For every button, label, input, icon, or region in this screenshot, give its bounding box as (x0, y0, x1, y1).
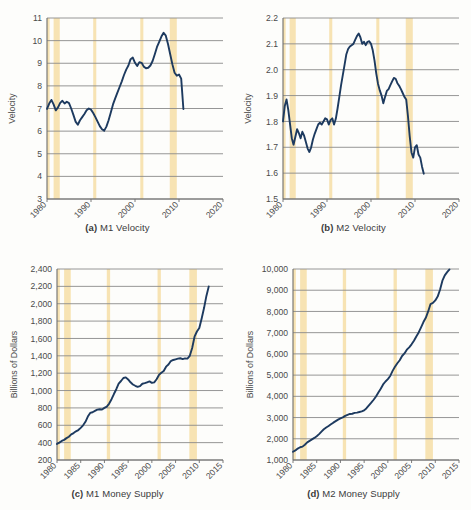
y-tick-label-3: 6 (37, 126, 42, 136)
recession-band-2 (343, 269, 346, 460)
y-tick-label-8: 1,800 (30, 316, 52, 326)
four-panel-money-figure: 3456789101119801990200020102020Velocity … (0, 0, 471, 510)
caption-text-b: M2 Velocity (336, 222, 386, 233)
recession-band-2 (107, 269, 110, 460)
x-tick-label-6: 2010 (416, 460, 437, 481)
y-axis-title: Billions of Dollars (9, 330, 19, 398)
x-tick-label-5: 2005 (392, 460, 413, 481)
x-tick-label-4: 2020 (440, 199, 461, 220)
y-tick-label-7: 10 (32, 36, 42, 46)
y-tick-label-4: 5,000 (266, 370, 288, 380)
caption-text-d: M2 Money Supply (322, 488, 400, 499)
caption-a: (a) M1 Velocity (0, 222, 235, 233)
x-tick-label-7: 2015 (204, 460, 225, 481)
y-tick-label-6: 7,000 (266, 328, 288, 338)
y-tick-label-3: 4,000 (266, 391, 288, 401)
chart-panel-m1-money-supply: 2004006008001,0001,2001,4001,6001,8002,0… (0, 255, 235, 510)
data-line-a (47, 33, 183, 131)
chart-svg-c: 2004006008001,0001,2001,4001,6001,8002,0… (0, 255, 235, 495)
y-tick-label-7: 8,000 (266, 307, 288, 317)
caption-label-b: (b) (321, 222, 333, 233)
caption-label-a: (a) (85, 222, 97, 233)
recession-band-1 (300, 269, 307, 460)
x-tick-label-2: 1990 (321, 460, 342, 481)
caption-c: (c) M1 Money Supply (0, 488, 235, 499)
y-tick-label-8: 11 (33, 13, 42, 23)
y-tick-label-3: 800 (38, 403, 53, 413)
x-tick-label-3: 2010 (160, 199, 181, 220)
x-tick-label-4: 2000 (369, 460, 390, 481)
y-tick-label-9: 10,000 (262, 264, 289, 274)
caption-b: (b) M2 Velocity (236, 222, 471, 233)
y-tick-label-6: 1,400 (30, 351, 52, 361)
y-tick-label-1: 4 (37, 171, 42, 181)
x-tick-label-1: 1990 (72, 199, 93, 220)
recession-band-1 (64, 269, 71, 460)
chart-svg-a: 3456789101119801990200020102020Velocity (0, 0, 235, 230)
y-tick-label-4: 7 (37, 104, 42, 114)
y-tick-label-8: 9,000 (266, 285, 288, 295)
caption-d: (d) M2 Money Supply (236, 488, 471, 499)
y-tick-label-5: 2.0 (266, 65, 278, 75)
x-tick-label-6: 2010 (180, 460, 201, 481)
y-tick-label-5: 8 (37, 81, 42, 91)
data-line-c (57, 286, 209, 444)
x-tick-label-3: 1995 (345, 460, 366, 481)
x-tick-label-1: 1990 (308, 199, 329, 220)
y-tick-label-2: 1.7 (266, 142, 278, 152)
x-tick-label-3: 1995 (109, 460, 130, 481)
y-tick-label-4: 1.9 (266, 91, 278, 101)
y-tick-label-1: 1.6 (266, 168, 278, 178)
y-tick-label-2: 5 (37, 149, 42, 159)
chart-panel-m2-money-supply: 1,0002,0003,0004,0005,0006,0007,0008,000… (236, 255, 471, 510)
x-tick-label-3: 2010 (396, 199, 417, 220)
caption-text-c: M1 Money Supply (86, 488, 164, 499)
chart-svg-b: 1.51.61.71.81.92.02.12.21980199020002010… (236, 0, 471, 230)
y-tick-label-7: 2.2 (266, 13, 278, 23)
y-tick-label-2: 600 (38, 420, 53, 430)
x-tick-label-2: 2000 (116, 199, 137, 220)
caption-text-a: M1 Velocity (100, 222, 150, 233)
x-tick-label-4: 2020 (204, 199, 225, 220)
y-tick-label-4: 1,000 (30, 386, 52, 396)
x-tick-label-1: 1985 (298, 460, 319, 481)
caption-label-c: (c) (71, 488, 83, 499)
chart-panel-m2-velocity: 1.51.61.71.81.92.02.12.21980199020002010… (236, 0, 471, 255)
y-tick-label-2: 3,000 (266, 413, 288, 423)
recession-band-2 (329, 18, 332, 199)
chart-svg-d: 1,0002,0003,0004,0005,0006,0007,0008,000… (236, 255, 471, 495)
recession-band-1 (290, 18, 296, 199)
recession-band-4 (189, 269, 197, 460)
y-tick-label-3: 1.8 (266, 117, 278, 127)
x-tick-label-5: 2005 (156, 460, 177, 481)
x-tick-label-7: 2015 (440, 460, 461, 481)
y-tick-label-5: 6,000 (266, 349, 288, 359)
data-line-b (283, 34, 424, 174)
y-tick-label-7: 1,600 (30, 334, 52, 344)
recession-band-4 (425, 269, 433, 460)
y-axis-title: Billions of Dollars (245, 330, 255, 398)
y-axis-title: Velocity (7, 93, 17, 124)
y-tick-label-11: 2,400 (30, 264, 52, 274)
y-tick-label-9: 2,000 (30, 299, 52, 309)
y-axis-title: Velocity (243, 93, 253, 124)
caption-label-d: (d) (307, 488, 319, 499)
x-tick-label-0: 1980 (28, 199, 49, 220)
recession-band-3 (376, 18, 379, 199)
y-tick-label-10: 2,200 (30, 281, 52, 291)
x-tick-label-2: 2000 (352, 199, 373, 220)
y-tick-label-6: 2.1 (266, 39, 278, 49)
chart-panel-m1-velocity: 3456789101119801990200020102020Velocity … (0, 0, 235, 255)
y-tick-label-1: 400 (38, 438, 53, 448)
y-tick-label-5: 1,200 (30, 368, 52, 378)
x-tick-label-2: 1990 (85, 460, 106, 481)
recession-band-3 (158, 269, 161, 460)
y-tick-label-1: 2,000 (266, 434, 288, 444)
y-tick-label-6: 9 (37, 58, 42, 68)
x-tick-label-1: 1985 (62, 460, 83, 481)
x-tick-label-4: 2000 (133, 460, 154, 481)
